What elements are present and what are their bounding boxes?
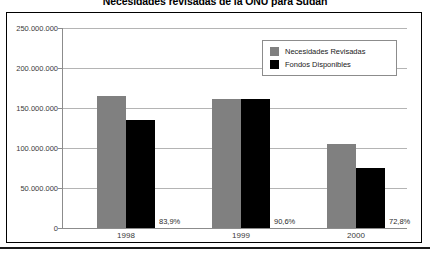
bar-1998-necesidades-revisadas — [97, 96, 126, 228]
legend-item-necesidades-revisadas: Necesidades Revisadas — [270, 45, 390, 58]
gridline-250m — [62, 28, 407, 29]
percent-label-2000: 72,8% — [389, 217, 410, 226]
y-tick-label: 150.000.000 — [4, 104, 58, 113]
bottom-divider — [0, 247, 430, 249]
percent-label-1998: 83,9% — [159, 217, 180, 226]
legend-item-fondos-disponibles: Fondos Disponibles — [270, 58, 390, 71]
bar-1999-necesidades-revisadas — [212, 99, 241, 228]
chart-title: Necesidades revisadas de la ONU para Sud… — [0, 0, 430, 7]
bar-2000-necesidades-revisadas — [327, 144, 356, 228]
y-axis-tick — [58, 188, 62, 189]
chart-legend: Necesidades Revisadas Fondos Disponibles — [262, 40, 397, 76]
bar-1999-fondos-disponibles — [241, 99, 270, 228]
legend-swatch-icon-available — [270, 60, 279, 69]
x-tick-label-1998: 1998 — [117, 231, 135, 240]
y-axis-tick — [58, 28, 62, 29]
y-tick-label: 0 — [4, 224, 58, 233]
percent-label-1999: 90,6% — [274, 217, 295, 226]
x-axis-line — [62, 228, 407, 229]
legend-label: Necesidades Revisadas — [285, 47, 365, 56]
x-tick-label-2000: 2000 — [347, 231, 365, 240]
y-tick-label: 50.000.000 — [4, 184, 58, 193]
y-tick-label: 200.000.000 — [4, 64, 58, 73]
legend-label: Fondos Disponibles — [285, 60, 351, 69]
x-axis-labels: 1998 1999 2000 — [62, 231, 407, 245]
y-axis-line — [62, 28, 63, 228]
legend-swatch-icon-revised — [270, 47, 279, 56]
y-axis-labels: 250.000.000 200.000.000 150.000.000 100.… — [0, 28, 58, 228]
y-axis-tick — [58, 68, 62, 69]
x-tick-label-1999: 1999 — [232, 231, 250, 240]
bar-2000-fondos-disponibles — [356, 168, 385, 228]
y-tick-label: 250.000.000 — [4, 24, 58, 33]
y-tick-label: 100.000.000 — [4, 144, 58, 153]
y-axis-tick — [58, 108, 62, 109]
bar-1998-fondos-disponibles — [126, 120, 155, 228]
y-axis-tick — [58, 148, 62, 149]
y-axis-tick — [58, 228, 62, 229]
